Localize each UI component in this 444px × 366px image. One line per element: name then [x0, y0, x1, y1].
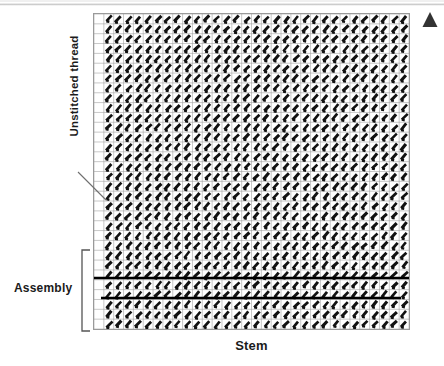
unstitched-thread-label: Unstitched thread [68, 6, 80, 166]
assembly-bracket [82, 250, 90, 331]
assembly-label: Assembly [14, 281, 72, 295]
triangle-up-icon [423, 12, 438, 27]
scan-artifact-top [0, 0, 444, 2]
stitch-pattern-figure: Unstitched thread Assembly Stem [0, 0, 444, 366]
stitch-grid-plot [93, 13, 410, 330]
stitch-marks-group [105, 15, 407, 328]
x-axis-label: Stem [93, 338, 410, 353]
stitch-grid-svg [94, 14, 409, 329]
scan-artifact-band [0, 3, 444, 6]
gridlines-group [94, 14, 409, 329]
